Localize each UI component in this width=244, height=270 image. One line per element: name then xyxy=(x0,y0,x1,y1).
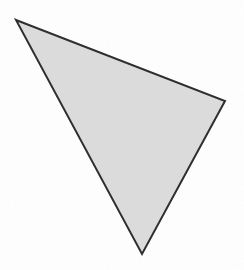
triangle-figure-svg xyxy=(0,0,244,270)
figure-canvas xyxy=(0,0,244,270)
